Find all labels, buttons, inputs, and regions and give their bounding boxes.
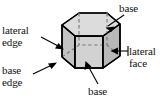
label-base-top-line1: base [119, 3, 138, 15]
label-lateral-face: lateral face [129, 46, 156, 69]
label-lateral-edge: lateral edge [2, 25, 29, 48]
label-lateral-edge-line1: lateral [2, 25, 29, 37]
label-lateral-edge-line2: edge [2, 37, 29, 49]
lateral-face-center [75, 36, 103, 68]
label-base-top: base [119, 3, 138, 15]
label-base-bottom-line1: base [88, 86, 107, 98]
label-base-edge: base edge [2, 65, 22, 88]
label-base-bottom: base [88, 86, 107, 98]
label-lateral-face-line1: lateral [129, 46, 156, 58]
label-base-edge-line2: edge [2, 77, 22, 89]
label-base-edge-line1: base [2, 65, 22, 77]
label-lateral-face-line2: face [129, 58, 156, 70]
hexagonal-prism-figure: lateral edge base lateral face base edge… [0, 0, 166, 105]
prism-body [62, 13, 120, 68]
